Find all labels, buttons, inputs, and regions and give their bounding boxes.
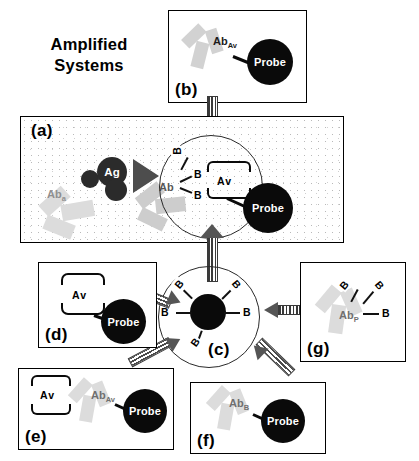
panel-b-antibody-sub: Av [228, 41, 237, 50]
panel-a-capture-text: Ab [47, 188, 62, 200]
panel-e-probe-label: Probe [123, 405, 167, 417]
panel-f-antibody-text: Ab [229, 397, 244, 409]
amplified-systems-figure: Amplified Systems (b) AbAv Probe (a) Aba [0, 0, 419, 461]
biotin-tag-a-3: B [193, 189, 203, 201]
figure-title: Amplified Systems [14, 34, 164, 75]
probe-circle-f: Probe [261, 399, 305, 443]
probe-circle-b: Probe [247, 39, 293, 85]
panel-c-label: (c) [208, 340, 230, 360]
figure-title-line2: Systems [14, 55, 164, 76]
panel-f: (f) AbB Probe [190, 382, 326, 454]
avidin-label-e: Av [40, 389, 55, 401]
panel-b-label: (b) [175, 80, 198, 100]
avidin-label-d: Av [72, 289, 87, 301]
panel-d-probe-label: Probe [101, 316, 146, 328]
panel-g-antibody-sub: P [354, 315, 359, 324]
panel-e: (e) Av AbAv Probe [18, 368, 174, 450]
panel-b: (b) AbAv Probe [168, 10, 307, 103]
probe-circle-d: Probe [101, 299, 146, 344]
panel-g-antibody-label: AbP [339, 309, 359, 324]
panel-a: (a) Aba Ag Ab B B B [20, 116, 344, 243]
biotin-tag-a-2: B [193, 168, 203, 180]
panel-e-antibody-sub: Av [106, 395, 115, 404]
panel-a-probe-label: Probe [243, 202, 293, 214]
biotin-line-g-3 [363, 313, 379, 315]
avidin-core-c [190, 294, 226, 330]
probe-circle-a: Probe [243, 183, 293, 233]
probe-circle-e: Probe [123, 389, 167, 433]
panel-f-antibody-label: AbB [229, 397, 249, 412]
panel-a-antigen-label: Ag [97, 166, 127, 178]
panel-d: (d) Av Probe [38, 262, 157, 348]
panel-a-label: (a) [31, 121, 53, 141]
panel-b-probe-label: Probe [247, 56, 293, 68]
panel-a-capture-sub: a [62, 194, 66, 203]
panel-b-antibody-text: Ab [213, 35, 228, 47]
avidin-label-a: Av [217, 175, 232, 187]
biotin-line-c-4 [224, 312, 240, 314]
antigen-dot-2 [105, 179, 127, 201]
panel-d-label: (d) [45, 325, 68, 345]
figure-title-line1: Amplified [14, 34, 164, 55]
panel-f-antibody-sub: B [244, 403, 249, 412]
panel-g: (g) AbP B B B [300, 262, 406, 362]
biotin-line-c-3 [176, 312, 192, 314]
panel-a-capture-antibody-label: Aba [47, 188, 66, 203]
biotin-tag-a-1: B [171, 146, 183, 156]
panel-e-antibody-label: AbAv [91, 389, 115, 404]
panel-g-antibody-text: Ab [339, 309, 354, 321]
biotin-tag-g-3: B [381, 307, 391, 319]
panel-b-antibody-label: AbAv [213, 35, 237, 50]
biotin-tag-c-4: B [242, 306, 252, 318]
antibody-icon-f [203, 383, 265, 444]
panel-e-label: (e) [25, 427, 47, 447]
panel-f-probe-label: Probe [261, 415, 305, 427]
panel-e-antibody-text: Ab [91, 389, 106, 401]
